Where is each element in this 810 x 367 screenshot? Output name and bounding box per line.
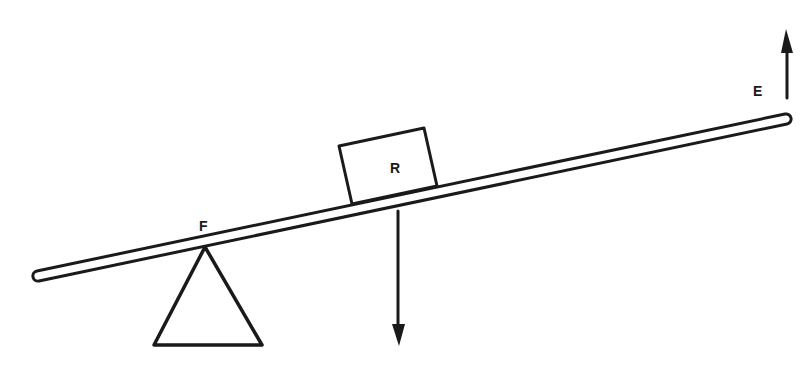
lever-beam <box>33 114 791 281</box>
effort-force-arrow <box>781 29 793 98</box>
load-box <box>339 128 437 204</box>
arrow-up-head-icon <box>781 29 793 53</box>
fulcrum-triangle <box>154 247 262 345</box>
arrow-down-head-icon <box>392 324 405 346</box>
fulcrum-label: F <box>199 218 208 234</box>
lever-diagram: F R E <box>0 0 810 367</box>
load-label: R <box>390 160 400 176</box>
load-force-arrow <box>392 211 405 346</box>
effort-label: E <box>753 83 762 99</box>
